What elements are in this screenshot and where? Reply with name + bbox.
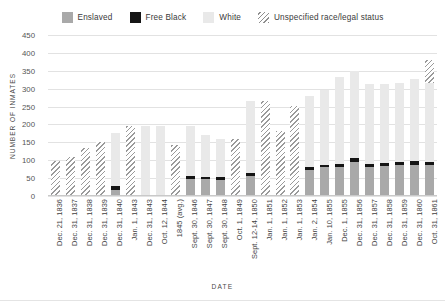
x-label-slot: Oct. 1, 1849: [228, 198, 243, 280]
bar-slot: [362, 35, 377, 196]
y-axis-tick-label: 350: [9, 66, 35, 75]
enslaved-swatch-icon: [62, 12, 73, 23]
bar-stack[interactable]: [365, 84, 374, 196]
bar-segment-enslaved: [201, 179, 210, 196]
bar-slot: [422, 35, 437, 196]
bar-segment-unspecified: [276, 131, 285, 196]
bar-slot: [213, 35, 228, 196]
bar-slot: [347, 35, 362, 196]
x-label-slot: Sept. 30, 1848: [213, 198, 228, 280]
y-axis-tick-label: 100: [9, 156, 35, 165]
bar-slot: [78, 35, 93, 196]
bar-stack[interactable]: [305, 96, 314, 196]
legend-label-white: White: [219, 13, 241, 22]
white-swatch-icon: [203, 12, 214, 23]
bar-stack[interactable]: [171, 145, 180, 196]
bar-slot: [183, 35, 198, 196]
bar-segment-enslaved: [335, 167, 344, 196]
bar-slot: [228, 35, 243, 196]
bar-segment-enslaved: [216, 180, 225, 196]
bar-segment-unspecified: [81, 148, 90, 196]
bar-slot: [63, 35, 78, 196]
bar-slot: [273, 35, 288, 196]
bar-slot: [258, 35, 273, 196]
y-axis-tick-label: 150: [9, 138, 35, 147]
bar-slot: [108, 35, 123, 196]
bar-slot: [138, 35, 153, 196]
unspecified-swatch-icon: [258, 12, 269, 23]
bar-segment-enslaved: [350, 162, 359, 196]
bar-segment-white: [350, 71, 359, 159]
bar-stack[interactable]: [216, 139, 225, 196]
bar-slot: [123, 35, 138, 196]
bar-stack[interactable]: [276, 131, 285, 196]
bar-stack[interactable]: [231, 139, 240, 196]
bar-stack[interactable]: [186, 126, 195, 196]
bar-segment-unspecified: [126, 126, 135, 196]
chart-legend: Enslaved Free Black White Unspecified ra…: [0, 6, 445, 28]
footer-divider: [0, 300, 445, 301]
bar-segment-enslaved: [186, 179, 195, 196]
x-label-slot: Oct. 31, 1861: [422, 198, 437, 280]
legend-item-free-black: Free Black: [130, 12, 187, 23]
bar-segment-white: [395, 83, 404, 162]
x-label-slot: Jan. 1, 1852: [273, 198, 288, 280]
x-label-slot: Sept. 30, 1847: [198, 198, 213, 280]
bar-stack[interactable]: [111, 133, 120, 196]
x-label-slot: Dec. 31, 1839: [93, 198, 108, 280]
bar-slot: [243, 35, 258, 196]
legend-label-enslaved: Enslaved: [78, 13, 113, 22]
bar-segment-white: [141, 126, 150, 196]
x-label-slot: Dec. 31, 1843: [138, 198, 153, 280]
bar-stack[interactable]: [425, 60, 434, 196]
x-label-slot: Jan. 10, 1855: [317, 198, 332, 280]
bar-stack[interactable]: [66, 157, 75, 196]
bar-slot: [332, 35, 347, 196]
x-label-slot: Dec. 31, 1840: [108, 198, 123, 280]
bar-segment-enslaved: [320, 167, 329, 196]
x-label-slot: Dec. 31, 1837: [63, 198, 78, 280]
bar-slot: [93, 35, 108, 196]
y-axis-tick-label: 0: [9, 192, 35, 201]
y-axis-tick-label: 400: [9, 48, 35, 57]
bar-segment-white: [410, 79, 419, 161]
bar-segment-white: [156, 126, 165, 196]
bar-segment-unspecified: [51, 161, 60, 196]
bar-stack[interactable]: [350, 71, 359, 196]
bar-stack[interactable]: [261, 101, 270, 196]
bar-segment-white: [380, 84, 389, 163]
bar-stack[interactable]: [126, 126, 135, 196]
x-label-slot: Dec. 21, 1836: [48, 198, 63, 280]
bar-stack[interactable]: [410, 79, 419, 196]
bar-slot: [48, 35, 63, 196]
x-axis-title: DATE: [0, 283, 445, 290]
bar-slot: [288, 35, 303, 196]
bar-stack[interactable]: [201, 135, 210, 196]
bar-stack[interactable]: [395, 83, 404, 196]
bar-stack[interactable]: [380, 84, 389, 196]
x-label-slot: Jan. 2, 1854: [302, 198, 317, 280]
bar-stack[interactable]: [290, 106, 299, 196]
x-label-slot: Sept. 30, 1846: [183, 198, 198, 280]
bar-stack[interactable]: [335, 77, 344, 196]
bar-segment-white: [335, 77, 344, 164]
inmate-population-stacked-bar-chart: Enslaved Free Black White Unspecified ra…: [0, 0, 445, 307]
bar-stack[interactable]: [156, 126, 165, 196]
bar-stack[interactable]: [81, 148, 90, 196]
bar-stack[interactable]: [96, 142, 105, 196]
bar-segment-enslaved: [305, 170, 314, 196]
bar-stack[interactable]: [246, 101, 255, 196]
bar-segment-unspecified: [171, 145, 180, 196]
bar-stack[interactable]: [320, 90, 329, 196]
bar-segment-enslaved: [425, 165, 434, 196]
bar-stack[interactable]: [141, 126, 150, 196]
bar-slot: [153, 35, 168, 196]
y-axis-tick-label: 300: [9, 84, 35, 93]
bar-slot: [302, 35, 317, 196]
x-label-slot: Dec. 1, 1855: [332, 198, 347, 280]
bar-slot: [168, 35, 183, 196]
x-label-slot: Oct. 12, 1844: [153, 198, 168, 280]
x-label-slot: Dec. 31, 1857: [362, 198, 377, 280]
y-axis-tick-label: 450: [9, 31, 35, 40]
bar-stack[interactable]: [51, 161, 60, 196]
